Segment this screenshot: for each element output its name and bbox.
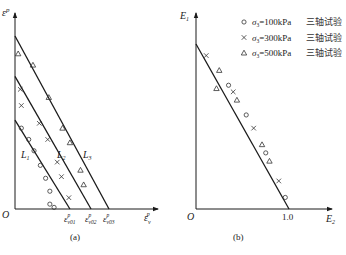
a-cross-point [55,160,60,165]
b-panel-label: (b) [233,232,244,242]
legend-test-type: 三轴试验 [306,47,342,58]
b-triangle-point [234,97,239,102]
a-tick-label-2: εv02p [85,212,97,225]
legend-cross-icon [242,35,247,40]
b-triangle-point [214,86,219,91]
b-cross-point [251,126,256,131]
b-cross-point [204,53,209,58]
panel-a: L1L2L3 εp O εvp εv01pεv02pεv03p (a) [2,6,158,242]
a-cross-point [59,174,64,179]
a-line-l2 [15,76,91,209]
legend-circle-icon [242,20,246,24]
b-tick-label-1: 1.0 [282,212,294,222]
a-line-label-l3: L3 [82,149,92,161]
b-cross-point [276,179,281,184]
a-panel-label: (a) [70,232,80,242]
panel-b: E1 O E2 1.0 σ3=100kPa三轴试验σ3=300kPa三轴试验σ3… [179,10,342,242]
legend-label: σ3=100kPa [252,17,291,28]
a-circle-point [48,189,52,193]
b-y-label: E1 [179,10,189,22]
a-tick-label-1: εv01p [64,212,76,225]
b-origin-label: O [187,211,194,222]
legend-item: σ3=100kPa三轴试验 [242,16,342,28]
a-line-label-l1: L1 [20,149,30,161]
b-triangle-point [267,158,272,163]
b-circle-point [283,195,287,199]
b-line-fit [196,44,289,209]
a-line-label-l2: L2 [56,149,66,161]
a-cross-point [67,195,72,200]
a-circle-point [48,202,52,206]
figure: L1L2L3 εp O εvp εv01pεv02pεv03p (a) E1 O… [0,0,346,255]
a-tick-label-3: εv03p [103,212,115,225]
legend-item: σ3=300kPa三轴试验 [242,32,342,44]
b-triangle-point [217,68,222,73]
a-x-label: εvp [144,211,151,225]
a-y-label: εp [2,6,10,18]
a-circle-point [38,163,42,167]
b-cross-point [231,90,236,95]
a-triangle-point [78,167,83,172]
legend-test-type: 三轴试验 [306,16,342,27]
a-circle-point [44,176,48,180]
a-triangle-point [15,51,20,56]
b-circle-point [226,83,230,87]
a-cross-point [19,103,24,108]
b-circle-point [244,113,248,117]
a-cross-point [45,137,50,142]
legend: σ3=100kPa三轴试验σ3=300kPa三轴试验σ3=500kPa三轴试验 [241,16,342,59]
b-circle-point [264,151,268,155]
a-origin-label: O [2,209,9,220]
a-cross-point [37,121,42,126]
legend-item: σ3=500kPa三轴试验 [241,47,342,59]
legend-test-type: 三轴试验 [306,32,342,43]
legend-label: σ3=300kPa [252,33,291,44]
legend-label: σ3=500kPa [252,48,291,59]
b-triangle-point [259,142,264,147]
b-x-label: E2 [325,213,335,225]
a-triangle-point [81,182,86,187]
a-line-l3 [15,36,109,209]
legend-triangle-icon [241,50,246,55]
